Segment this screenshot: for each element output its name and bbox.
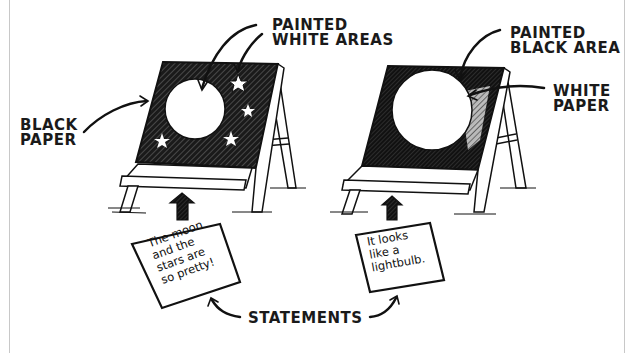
up-arrow-icon [170, 193, 194, 220]
label-statements: Statements [248, 311, 363, 326]
label-painted-black-area: Painted Black Area [510, 26, 620, 56]
label-white-paper: White Paper [553, 84, 611, 114]
illustration-frame: Painted White Areas Black Paper Painted … [0, 0, 638, 353]
label-black-paper: Black Paper [20, 118, 78, 148]
left-easel [108, 62, 306, 220]
label-painted-white-areas: Painted White Areas [272, 18, 394, 48]
right-easel [330, 66, 536, 220]
up-arrow-icon [382, 196, 402, 220]
